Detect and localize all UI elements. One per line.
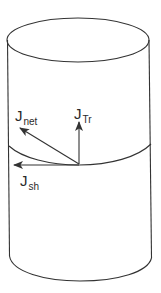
cylinder-right-side bbox=[149, 40, 152, 258]
j-sh-label: Jsh bbox=[20, 173, 39, 188]
j-tr-sub: Tr bbox=[83, 114, 92, 125]
cylinder-figure bbox=[0, 0, 161, 293]
j-tr-main: J bbox=[74, 105, 82, 122]
j-net-sub: net bbox=[24, 116, 38, 127]
cylinder-top-ellipse bbox=[7, 18, 149, 62]
j-net-arrow bbox=[20, 128, 79, 164]
cylinder-bottom-curve bbox=[10, 256, 152, 281]
j-sh-main: J bbox=[20, 172, 28, 189]
j-sh-sub: sh bbox=[29, 181, 40, 192]
j-tr-label: JTr bbox=[74, 106, 92, 121]
cylinder-left-side bbox=[8, 40, 10, 256]
cylinder-diagram: Jnet JTr Jsh bbox=[0, 0, 161, 293]
cross-section-arc bbox=[9, 144, 151, 165]
j-net-label: Jnet bbox=[15, 108, 37, 123]
j-net-main: J bbox=[15, 107, 23, 124]
